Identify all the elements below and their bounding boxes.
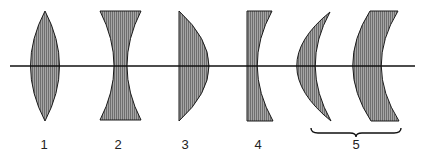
label-lens-1: 1 [40, 137, 47, 152]
label-lens-2: 2 [114, 137, 121, 152]
lens-diagram: 1 2 3 4 5 [0, 0, 424, 159]
label-lens-5: 5 [352, 137, 359, 152]
label-lens-3: 3 [181, 137, 188, 152]
group-brace [311, 128, 401, 137]
label-lens-4: 4 [254, 137, 261, 152]
